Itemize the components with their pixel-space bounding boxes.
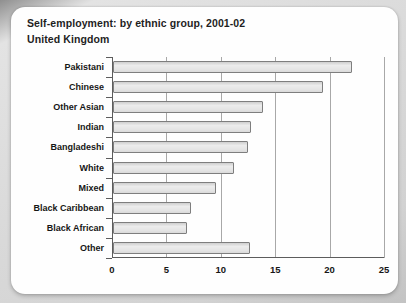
y-axis-tick (106, 77, 112, 78)
gridline-x-25 (384, 57, 385, 258)
y-axis-line (112, 57, 113, 258)
bar-indian (113, 121, 251, 133)
category-label-mixed: Mixed (11, 183, 104, 193)
gridline-x-20 (330, 57, 331, 258)
bar-pakistani (113, 61, 352, 73)
chart-title: Self-employment: by ethnic group, 2001-0… (27, 16, 245, 31)
category-label-other: Other (11, 243, 104, 253)
bar-black-caribbean (113, 202, 191, 214)
bar-bangladeshi (113, 141, 248, 153)
x-axis-line (112, 257, 384, 258)
x-tick-label-15: 15 (270, 264, 281, 275)
y-axis-tick (106, 57, 112, 58)
y-axis-tick (106, 198, 112, 199)
category-label-white: White (11, 163, 104, 173)
category-label-pakistani: Pakistani (11, 62, 104, 72)
category-label-black-african: Black African (11, 223, 104, 233)
bar-other (113, 242, 250, 254)
bar-chinese (113, 81, 323, 93)
y-axis-tick (106, 97, 112, 98)
y-axis-tick (106, 158, 112, 159)
x-tick-label-5: 5 (164, 264, 169, 275)
page-background: { "page": { "title": "Self-employment: b… (0, 0, 406, 303)
category-label-indian: Indian (11, 122, 104, 132)
y-axis-tick (106, 117, 112, 118)
bar-other-asian (113, 101, 263, 113)
category-label-other-asian: Other Asian (11, 102, 104, 112)
y-axis-tick (106, 238, 112, 239)
bar-mixed (113, 182, 216, 194)
y-axis-tick (106, 178, 112, 179)
category-label-chinese: Chinese (11, 82, 104, 92)
x-tick-label-0: 0 (109, 264, 114, 275)
y-axis-tick (106, 137, 112, 138)
category-label-black-caribbean: Black Caribbean (11, 203, 104, 213)
x-tick-label-20: 20 (324, 264, 335, 275)
bar-chart-plot-area (112, 57, 384, 258)
x-tick-label-25: 25 (379, 264, 390, 275)
bar-black-african (113, 222, 187, 234)
category-label-bangladeshi: Bangladeshi (11, 142, 104, 152)
y-axis-tick (106, 218, 112, 219)
y-axis-tick (106, 258, 112, 259)
x-tick-label-10: 10 (216, 264, 227, 275)
figure-card: Self-employment: by ethnic group, 2001-0… (11, 7, 398, 294)
chart-subtitle: United Kingdom (27, 32, 109, 47)
bar-white (113, 162, 234, 174)
